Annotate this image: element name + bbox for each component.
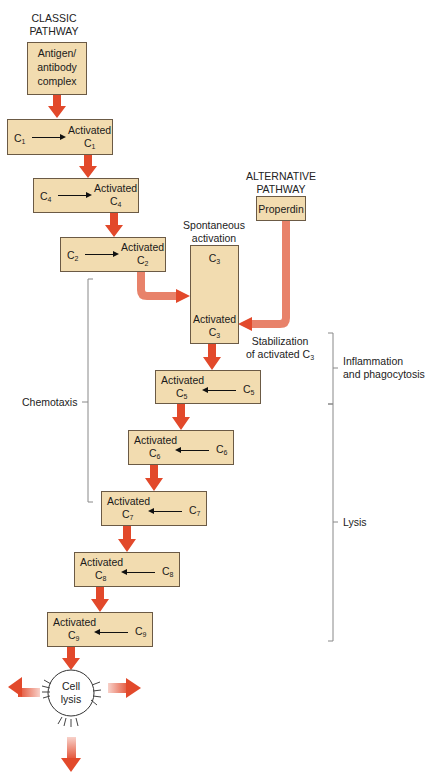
step-input: C3 bbox=[191, 252, 238, 264]
properdin-text: Properdin bbox=[257, 203, 305, 215]
properdin-to-c3-arrow bbox=[250, 221, 286, 324]
antigen-line2: antibody bbox=[28, 60, 86, 74]
arrowhead-icon bbox=[60, 134, 66, 140]
c2-to-c3-arrow bbox=[141, 272, 178, 296]
stabilization-line2: of activated C3 bbox=[240, 348, 320, 361]
stabilization-line1: Stabilization bbox=[240, 335, 320, 348]
step-output: Activated bbox=[68, 124, 111, 136]
stabilization-label: Stabilization of activated C3 bbox=[240, 335, 320, 361]
step-input: C9 bbox=[135, 625, 147, 637]
step-input: C7 bbox=[189, 504, 201, 516]
step-box-c9: Activated C9 C9 bbox=[47, 612, 153, 647]
inflammation-bracket bbox=[328, 333, 333, 404]
step-output-c: C5 bbox=[176, 387, 188, 399]
classic-pathway-label: CLASSIC PATHWAY bbox=[14, 12, 94, 38]
antigen-antibody-box: Antigen/ antibody complex bbox=[27, 42, 87, 95]
step-output-c: C6 bbox=[149, 447, 161, 459]
step-input: C2 bbox=[67, 249, 79, 261]
cell-lysis-line1: Cell bbox=[51, 680, 91, 693]
step-input: C1 bbox=[14, 132, 26, 144]
spontaneous-activation-label: Spontaneous activation bbox=[176, 219, 252, 245]
step-output: Activated bbox=[107, 495, 150, 507]
step-output: Activated bbox=[134, 434, 177, 446]
step-input: C8 bbox=[162, 565, 174, 577]
arrow-right-icon bbox=[32, 137, 62, 138]
lysis-label: Lysis bbox=[343, 516, 367, 529]
arrow-right-icon bbox=[58, 195, 88, 196]
arrowhead-icon bbox=[113, 251, 119, 257]
arrow-right-icon bbox=[85, 254, 115, 255]
inflammation-line2: and phagocytosis bbox=[343, 368, 425, 381]
antigen-line1: Antigen/ bbox=[28, 46, 86, 60]
step-output-c: C9 bbox=[68, 629, 80, 641]
step-box-c2: C2 Activated C2 bbox=[60, 237, 166, 272]
antigen-line3: complex bbox=[28, 74, 86, 88]
step-box-c7: Activated C7 C7 bbox=[101, 491, 207, 526]
step-output: Activated bbox=[94, 182, 137, 194]
step-output-c: C8 bbox=[95, 569, 107, 581]
inflammation-line1: Inflammation bbox=[343, 355, 425, 368]
arrowhead-icon bbox=[86, 192, 92, 198]
step-box-c8: Activated C8 C8 bbox=[74, 552, 180, 587]
step-box-c3: C3 Activated C3 bbox=[190, 245, 239, 344]
step-output: Activated bbox=[191, 313, 238, 325]
inflammation-label: Inflammation and phagocytosis bbox=[343, 355, 425, 381]
right-outward-arrow bbox=[126, 678, 141, 698]
arrow-left-icon bbox=[152, 511, 182, 512]
alt-label-line1: ALTERNATIVE bbox=[236, 170, 326, 183]
arrow-left-icon bbox=[179, 450, 209, 451]
step-input: C6 bbox=[216, 443, 228, 455]
step-box-c4: C4 Activated C4 bbox=[33, 178, 139, 213]
step-output: Activated bbox=[121, 241, 164, 253]
step-output-c: C7 bbox=[122, 508, 134, 520]
step-output: Activated bbox=[161, 374, 204, 386]
arrow-left-icon bbox=[98, 632, 128, 633]
step-box-c5: Activated C5 C5 bbox=[155, 370, 261, 404]
step-input: C4 bbox=[40, 190, 52, 202]
arrow-left-icon bbox=[206, 390, 236, 391]
step-input: C5 bbox=[243, 383, 255, 395]
spontaneous-line2: activation bbox=[176, 232, 252, 245]
step-box-c6: Activated C6 C6 bbox=[128, 430, 234, 465]
spontaneous-line1: Spontaneous bbox=[176, 219, 252, 232]
step-output: Activated bbox=[53, 616, 96, 628]
step-output-c: C3 bbox=[191, 326, 238, 338]
step-output-c: C1 bbox=[84, 137, 96, 149]
arrow-left-icon bbox=[125, 572, 155, 573]
chemotaxis-bracket bbox=[88, 279, 93, 502]
classic-label-line1: CLASSIC bbox=[14, 12, 94, 25]
properdin-box: Properdin bbox=[256, 196, 306, 221]
cell-lysis-label: Cell lysis bbox=[51, 680, 91, 706]
step-output-c: C4 bbox=[110, 195, 122, 207]
chemotaxis-label: Chemotaxis bbox=[22, 396, 77, 409]
alternative-pathway-label: ALTERNATIVE PATHWAY bbox=[236, 170, 326, 196]
down-outward-arrow bbox=[61, 758, 81, 772]
classic-label-line2: PATHWAY bbox=[14, 25, 94, 38]
alt-label-line2: PATHWAY bbox=[236, 183, 326, 196]
lysis-bracket bbox=[328, 404, 333, 641]
left-outward-arrow bbox=[8, 677, 22, 697]
cell-lysis-line2: lysis bbox=[51, 693, 91, 706]
step-output: Activated bbox=[80, 556, 123, 568]
step-output-c: C2 bbox=[137, 254, 149, 266]
step-box-c1: C1 Activated C1 bbox=[7, 119, 113, 155]
